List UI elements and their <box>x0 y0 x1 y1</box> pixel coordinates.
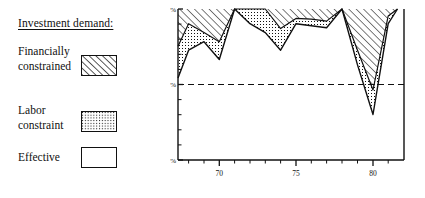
legend-swatch-diagonal-hatch-icon <box>81 55 117 76</box>
y-tick-label-0: 0 % <box>170 157 176 165</box>
legend-item-label: Labor constraint <box>18 103 80 132</box>
y-tick-label-100: 100 % <box>170 6 176 14</box>
legend-swatch-dotted-icon <box>81 111 117 132</box>
legend-label-line1: Effective <box>18 151 60 163</box>
legend-label-line1: Labor <box>18 104 45 116</box>
chart-svg: 100 % 50 % 0 % 70 75 80 <box>170 0 425 198</box>
x-tick-label-75: 75 <box>292 169 300 178</box>
legend-label-line2: constraint <box>18 118 80 133</box>
x-tick-label-80: 80 <box>369 169 377 178</box>
legend-swatch-blank-icon <box>81 147 117 168</box>
legend-title: Investment demand: <box>18 17 113 29</box>
figure-root: Investment demand: Financially constrain… <box>0 0 425 198</box>
chart-panel: 100 % 50 % 0 % 70 75 80 <box>170 0 425 198</box>
x-tick-label-70: 70 <box>216 169 224 178</box>
legend-panel: Investment demand: Financially constrain… <box>0 0 170 198</box>
legend-item-label: Financially constrained <box>18 44 80 73</box>
legend-item-label: Effective <box>18 150 80 165</box>
plot-area <box>178 9 404 160</box>
y-tick-label-50: 50 % <box>170 81 176 89</box>
legend-label-line2: constrained <box>18 59 80 74</box>
legend-label-line1: Financially <box>18 45 70 57</box>
